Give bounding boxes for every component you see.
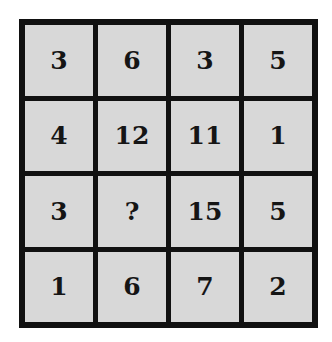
cell-r3-c4: 5	[244, 176, 312, 247]
cell-r3-c2-missing: ?	[98, 176, 166, 247]
cell-r2-c1: 4	[25, 101, 93, 172]
cell-r2-c3: 11	[171, 101, 239, 172]
cell-r3-c1: 3	[25, 176, 93, 247]
cell-r4-c2: 6	[98, 252, 166, 323]
cell-r1-c3: 3	[171, 25, 239, 96]
cell-r1-c1: 3	[25, 25, 93, 96]
cell-r1-c4: 5	[244, 25, 312, 96]
cell-r4-c3: 7	[171, 252, 239, 323]
cell-r2-c4: 1	[244, 101, 312, 172]
cell-r2-c2: 12	[98, 101, 166, 172]
cell-r4-c1: 1	[25, 252, 93, 323]
cell-r3-c3: 15	[171, 176, 239, 247]
cell-r1-c2: 6	[98, 25, 166, 96]
number-grid-puzzle: 3 6 3 5 4 12 11 1 3 ? 15 5 1 6 7 2	[19, 19, 318, 328]
cell-r4-c4: 2	[244, 252, 312, 323]
